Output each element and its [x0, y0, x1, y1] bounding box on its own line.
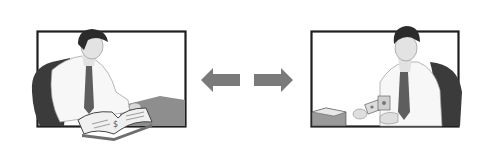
- right-tie: [398, 72, 410, 120]
- left-panel-accountant-reading: $: [32, 29, 186, 141]
- arrow-left-icon: [201, 68, 240, 92]
- right-hand-left: [353, 109, 367, 119]
- right-panel-clerk-with-cash: [312, 26, 463, 127]
- right-hand-right: [380, 112, 398, 124]
- left-book-dollar-sign: $: [113, 120, 118, 129]
- illustration-canvas: $: [0, 0, 487, 147]
- arrow-right-icon: [254, 68, 293, 92]
